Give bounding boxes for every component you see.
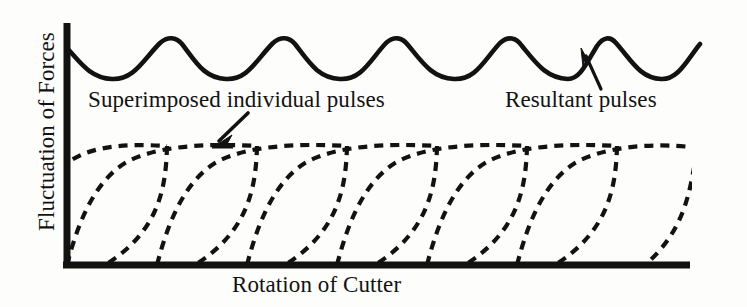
superimposed-individual-pulses-curve [40, 145, 697, 265]
resultant-pulses-label: Resultant pulses [505, 88, 657, 111]
pulse-5-fall [465, 146, 527, 265]
pulse-1 [40, 145, 167, 265]
pulse-1-fall [105, 146, 167, 265]
pulse-2-fall [195, 146, 257, 265]
x-axis-title: Rotation of Cutter [232, 273, 401, 296]
pulse-4-fall [375, 146, 437, 265]
plot-canvas [0, 0, 747, 307]
superimposed-pulses-arrow-shaft [219, 113, 248, 141]
superimposed-pulses-arrow [212, 113, 248, 148]
pulse-6-fall [555, 146, 617, 265]
superimposed-individual-pulses-label: Superimposed individual pulses [88, 88, 385, 111]
figure-container: Fluctuation of Forces Rotation of Cutter… [0, 0, 747, 307]
y-axis-title: Fluctuation of Forces [35, 2, 58, 262]
resultant-pulses-curve [67, 38, 700, 79]
pulse-7-fall [645, 150, 697, 265]
pulse-3-fall [285, 146, 347, 265]
